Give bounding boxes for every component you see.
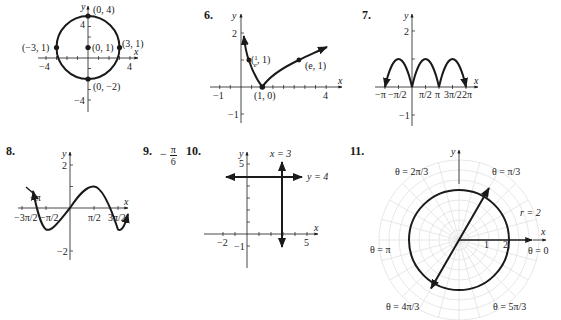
tick-r-2: 2: [503, 239, 508, 250]
tick-x-pi-half: π/2: [88, 212, 101, 223]
figure-7-graph: y x 2 −1 −π −π/2 π/2 π 3π/2 2π: [375, 10, 479, 126]
y-axis-label: y: [403, 10, 409, 21]
label-x-equals-3: x = 3: [269, 148, 291, 159]
figures-canvas: y x −4 4 4 −4 (0, 4) (−3, 1) (0, 1) (3, …: [0, 0, 561, 320]
point-label-1-0: (1, 0): [254, 90, 276, 102]
tick-x-neg-pi: −π: [375, 89, 386, 100]
tick-x-5: 5: [304, 237, 309, 248]
point-label-3-1: (3, 1): [122, 38, 144, 50]
tick-x-neg2: −2: [217, 237, 228, 248]
tick-r-1: 1: [484, 239, 489, 250]
tick-x-neg-pi-half: −π/2: [388, 89, 406, 100]
point-label-0-1: (0, 1): [92, 42, 114, 54]
tick-x-neg4: −4: [39, 61, 50, 72]
figure-10-graph: y x 5 −1 −2 5 x = 3 y = 4: [204, 148, 328, 268]
point-label-0-neg2: (0, −2): [93, 81, 120, 93]
tick-y-neg1: −1: [234, 241, 245, 252]
tick-y-neg4: −4: [74, 95, 85, 106]
point-label-0-4: (0, 4): [93, 4, 115, 16]
tick-x-pi: π: [435, 89, 440, 100]
tick-y-4: 4: [80, 19, 85, 30]
label-y-equals-4: y = 4: [306, 171, 328, 182]
y-axis-label: y: [80, 1, 86, 12]
tick-x-neg-3pi-half: −3π/2: [14, 212, 37, 223]
tick-x-3pi-half: 3π/2: [444, 89, 462, 100]
label-theta-2pi-over-3: θ = 2π/3: [395, 166, 428, 177]
tick-x-neg1: −1: [213, 90, 224, 101]
abs-sine-curve: [385, 59, 466, 87]
tick-x-4: 4: [323, 90, 328, 101]
tick-x-3pi-half: 3π/2: [108, 212, 126, 223]
label-r-equals-2: r = 2: [520, 207, 541, 218]
label-theta-4pi-over-3: θ = 4π/3: [386, 301, 419, 312]
figure-11-polar-graph: y x 1 2 r = 2 θ = 2π/3 θ = π/3 θ = π θ =…: [370, 146, 548, 320]
tick-y-2: 2: [404, 26, 409, 37]
point-label-e-1: (e, 1): [305, 60, 326, 72]
label-theta-5pi-over-3: θ = 5π/3: [493, 301, 526, 312]
y-axis-label: y: [450, 146, 456, 157]
y-axis-label: y: [61, 148, 67, 159]
tick-x-4: 4: [127, 61, 132, 72]
tick-x-neg-pi-half: −π/2: [40, 212, 58, 223]
figure-6-graph: y x 2 −1 −1 4 (1e, 1) (e, 1) (1, 0): [210, 10, 343, 123]
tick-y-neg1: −1: [399, 110, 410, 121]
x-axis-label: x: [123, 196, 129, 207]
point-label-neg3-1: (−3, 1): [22, 42, 49, 54]
figure-8-graph: y x 2 −2 −3π/2 −π −π/2 π/2 3π/2: [14, 148, 129, 260]
x-axis-label: x: [337, 75, 343, 86]
label-theta-0: θ = 0: [528, 245, 548, 256]
x-axis-label: x: [313, 222, 319, 233]
figure-5-circle-graph: y x −4 4 4 −4 (0, 4) (−3, 1) (0, 1) (3, …: [22, 1, 144, 112]
label-theta-pi: θ = π: [370, 244, 390, 255]
tick-y-5: 5: [239, 158, 244, 169]
label-theta-pi-over-3: θ = π/3: [492, 166, 520, 177]
line-theta-pi-over-3: [431, 188, 489, 289]
y-axis-label: y: [231, 10, 237, 21]
tick-x-2pi: 2π: [462, 89, 472, 100]
tick-y-neg1: −1: [228, 109, 239, 120]
tick-x-pi-half: π/2: [419, 89, 432, 100]
tick-y-neg2: −2: [57, 246, 68, 257]
tick-y-2: 2: [232, 28, 237, 39]
x-axis-label: x: [473, 75, 479, 86]
x-axis-label: x: [540, 226, 546, 237]
tick-y-2: 2: [62, 160, 67, 171]
point-label-1-over-e: (1e, 1): [251, 54, 270, 69]
